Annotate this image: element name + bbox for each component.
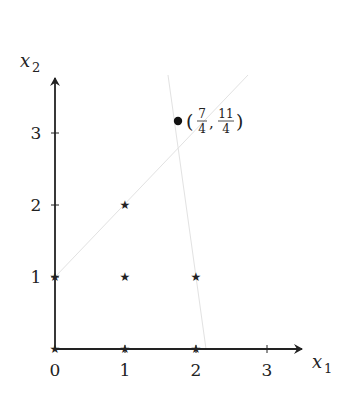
star-icon: ★	[191, 270, 202, 284]
diagram-canvas: 0 1 2 3 1 2 3 x 1 x 2 ★ ★ ★ ★ ★ ★ ★ ( 7 …	[0, 0, 354, 397]
y-tick-label-3: 3	[31, 123, 42, 143]
optimum-point-label: ( 7 4 , 11 4 )	[186, 107, 243, 136]
svg-text:(: (	[186, 110, 193, 132]
svg-text:2: 2	[32, 60, 40, 75]
svg-text:7: 7	[198, 107, 206, 121]
x-tick-label-3: 3	[262, 360, 273, 380]
x-tick-label-0: 0	[50, 360, 61, 380]
x-axis-label: x 1	[312, 351, 332, 376]
y-tick-label-1: 1	[31, 267, 42, 287]
svg-text:x: x	[312, 351, 322, 372]
optimum-point-dot	[174, 117, 182, 125]
svg-text:4: 4	[198, 122, 206, 136]
svg-text:1: 1	[324, 361, 332, 376]
star-icon: ★	[120, 198, 131, 212]
star-icon: ★	[120, 270, 131, 284]
svg-text:x: x	[20, 50, 30, 71]
x-tick-label-1: 1	[120, 360, 131, 380]
star-icon: ★	[191, 342, 202, 356]
star-icon: ★	[50, 342, 61, 356]
x-tick-label-2: 2	[191, 360, 202, 380]
svg-text:11: 11	[218, 107, 233, 121]
svg-text:): )	[236, 110, 243, 132]
svg-text:,: ,	[209, 114, 214, 132]
star-icon: ★	[50, 270, 61, 284]
star-icon: ★	[120, 342, 131, 356]
y-axis-label: x 2	[20, 50, 40, 75]
constraint-line-diagonal	[55, 75, 248, 277]
y-tick-label-2: 2	[31, 195, 42, 215]
svg-text:4: 4	[222, 122, 230, 136]
integer-points: ★ ★ ★ ★ ★ ★ ★	[50, 198, 202, 356]
